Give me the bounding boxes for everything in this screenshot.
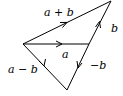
label-a-minus-b: a − b — [8, 63, 38, 76]
label-neg-b: −b — [90, 59, 106, 72]
label-a: a — [62, 48, 69, 61]
vector-b — [89, 1, 111, 44]
label-b: b — [111, 22, 118, 35]
label-a-plus-b: a + b — [44, 6, 74, 19]
vector-diagram: a + b b a −b a − b — [0, 0, 123, 96]
vector-neg-b — [67, 44, 89, 90]
arrowhead-a-minus-b-icon — [39, 59, 46, 66]
vector-a — [23, 41, 89, 47]
